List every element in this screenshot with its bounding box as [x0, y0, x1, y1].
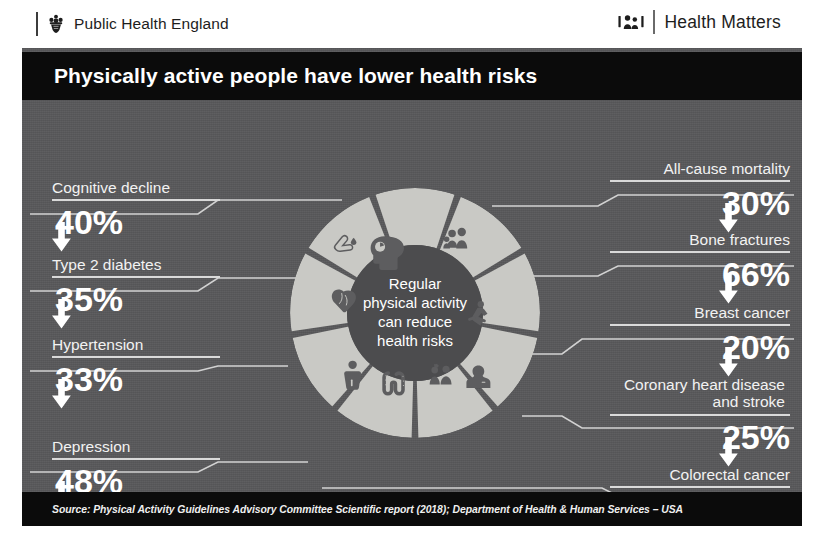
stat-label: Bone fractures: [610, 231, 790, 248]
stat-underline: [610, 251, 790, 253]
page-title: Physically active people have lower heal…: [22, 64, 537, 88]
phe-wordmark-text: Public Health England: [74, 15, 229, 33]
health-matters-people-icon: [618, 12, 644, 32]
stat-type-2-diabetes: Type 2 diabetes 35%: [52, 256, 220, 316]
stat-underline: [52, 458, 220, 460]
stat-depression: Depression 48%: [52, 438, 220, 498]
stat-value-row: 66%: [610, 257, 790, 291]
logo-divider-rule: [36, 12, 38, 36]
source-text: Source: Physical Activity Guidelines Adv…: [22, 504, 683, 515]
health-matters-wordmark-text: Health Matters: [664, 12, 781, 33]
stat-value-row: 33%: [52, 362, 220, 396]
stat-value-row: 30%: [610, 186, 790, 220]
stat-hypertension: Hypertension 33%: [52, 336, 220, 396]
public-health-england-logo: Public Health England: [36, 12, 229, 36]
stat-coronary-heart-disease-and-stroke: Coronary heart disease and stroke 25%: [610, 376, 790, 454]
stat-underline: [610, 414, 790, 416]
stat-value-row: 25%: [610, 420, 790, 454]
stat-underline: [610, 180, 790, 182]
stat-value-row: 40%: [52, 205, 220, 239]
stat-cognitive-decline: Cognitive decline 40%: [52, 179, 220, 239]
health-matters-logo: Health Matters: [618, 10, 781, 34]
health-risk-donut-chart: [290, 188, 540, 438]
stat-label: Breast cancer: [610, 304, 790, 321]
stat-underline: [610, 324, 790, 326]
stat-label: Hypertension: [52, 336, 220, 353]
source-bar: Source: Physical Activity Guidelines Adv…: [22, 492, 802, 526]
donut-hub: [347, 245, 483, 381]
stat-label: Colorectal cancer: [610, 466, 790, 483]
royal-crest-icon: [45, 13, 67, 35]
page-header: Public Health England Health Matters: [0, 0, 823, 48]
infographic-panel: Physically active people have lower heal…: [22, 48, 802, 526]
infographic-title-bar: Physically active people have lower heal…: [22, 52, 802, 100]
stat-label: All-cause mortality: [610, 160, 790, 177]
stat-value-row: 35%: [52, 282, 220, 316]
stat-underline: [52, 356, 220, 358]
stat-underline: [52, 199, 220, 201]
hm-logo-divider-rule: [653, 10, 655, 34]
stat-breast-cancer: Breast cancer 20%: [610, 304, 790, 364]
stat-label: Cognitive decline: [52, 179, 220, 196]
stat-bone-fractures: Bone fractures 66%: [610, 231, 790, 291]
stat-label: Depression: [52, 438, 220, 455]
stat-label: Coronary heart disease and stroke: [610, 376, 785, 411]
stat-label: Type 2 diabetes: [52, 256, 220, 273]
stat-underline: [610, 486, 790, 488]
stat-value-row: 20%: [610, 330, 790, 364]
stat-all-cause-mortality: All-cause mortality 30%: [610, 160, 790, 220]
stat-underline: [52, 276, 220, 278]
